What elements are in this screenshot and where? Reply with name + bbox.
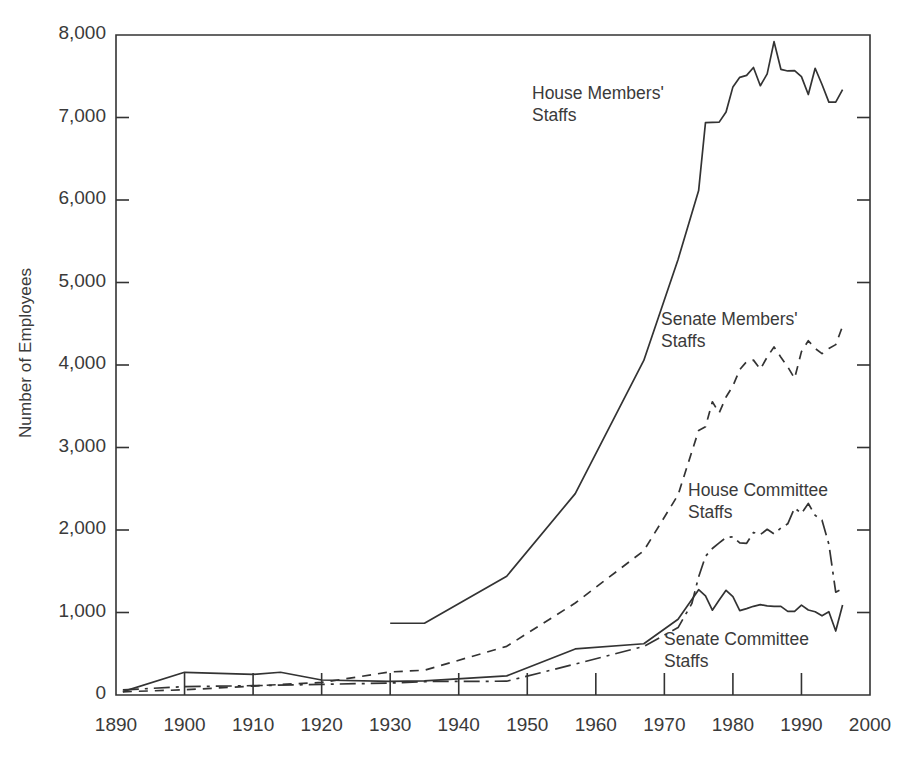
x-tick-label: 2000 [830, 714, 904, 736]
y-tick-label: 3,000 [58, 435, 106, 457]
y-tick-label: 6,000 [58, 187, 106, 209]
data-series-group [123, 42, 843, 692]
y-tick-label: 5,000 [58, 270, 106, 292]
y-tick-label: 2,000 [58, 517, 106, 539]
series-label-1: House Members' Staffs [532, 82, 664, 126]
y-tick-label: 8,000 [58, 22, 106, 44]
y-tick-label: 4,000 [58, 352, 106, 374]
axis-ticks [116, 118, 870, 696]
y-tick-label: 7,000 [58, 105, 106, 127]
series-label-2: Senate Members' Staffs [661, 308, 798, 352]
y-tick-label: 0 [95, 682, 106, 704]
chart-figure: Number of Employees 01,0002,0003,0004,00… [0, 0, 904, 757]
series-label-4: Senate Committee Staffs [664, 628, 809, 672]
series-label-3: House Committee Staffs [688, 479, 828, 523]
y-tick-label: 1,000 [58, 600, 106, 622]
